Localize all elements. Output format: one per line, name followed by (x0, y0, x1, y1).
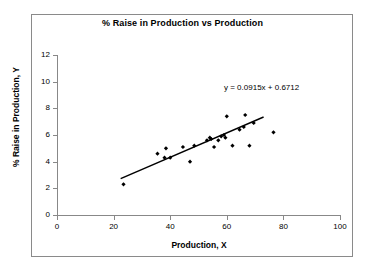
x-tick-mark (57, 216, 58, 220)
x-tick-mark (114, 216, 115, 220)
x-tick-label: 60 (215, 222, 239, 231)
y-tick-label: 10 (32, 77, 50, 86)
chart-title: % Raise in Production vs Production (0, 18, 365, 28)
data-point (181, 145, 185, 149)
data-point-group (121, 113, 275, 187)
data-point (188, 160, 192, 164)
data-point (121, 182, 125, 186)
data-point (271, 130, 275, 134)
y-tick-label: 2 (32, 183, 50, 192)
data-point (247, 144, 251, 148)
data-point (243, 113, 247, 117)
data-point (164, 146, 168, 150)
y-axis-title: % Raise in Production, Y (11, 47, 21, 187)
y-tick-label: 8 (32, 103, 50, 112)
y-tick-label: 12 (32, 50, 50, 59)
x-tick-mark (340, 216, 341, 220)
x-tick-mark (283, 216, 284, 220)
scatter-plot-svg (57, 55, 340, 215)
data-point (216, 138, 220, 142)
x-tick-mark (227, 216, 228, 220)
x-tick-label: 40 (158, 222, 182, 231)
y-tick-label: 6 (32, 130, 50, 139)
x-tick-label: 80 (271, 222, 295, 231)
x-tick-label: 100 (328, 222, 352, 231)
data-point (225, 114, 229, 118)
x-tick-label: 0 (45, 222, 69, 231)
x-axis-title: Production, X (57, 240, 341, 250)
x-tick-mark (170, 216, 171, 220)
y-tick-label: 4 (32, 157, 50, 166)
y-tick-label: 0 (32, 210, 50, 219)
data-point (212, 145, 216, 149)
plot-area (57, 55, 340, 215)
x-axis-line (57, 215, 341, 216)
data-point (155, 152, 159, 156)
chart-screenshot: % Raise in Production vs Production 0246… (0, 0, 365, 274)
data-point (230, 144, 234, 148)
x-tick-label: 20 (102, 222, 126, 231)
trendline-segment (121, 117, 264, 179)
regression-trendline (121, 117, 264, 179)
